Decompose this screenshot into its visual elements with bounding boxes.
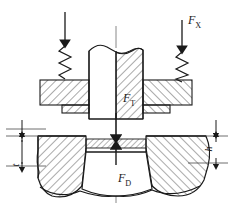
force-label-punch: FT <box>123 92 135 108</box>
die-right <box>146 136 210 196</box>
force-label-blank-holder: FX <box>188 14 201 30</box>
diagram-svg <box>0 0 232 218</box>
die-cavity <box>82 152 152 196</box>
figure-canvas: FX FT FD t h <box>0 0 232 218</box>
coil-spring-icon-right <box>176 52 188 82</box>
blank-holder-right <box>143 80 192 113</box>
coil-spring-icon-left <box>59 46 71 79</box>
die-left <box>37 136 86 197</box>
dimension-label-h: h <box>204 144 214 154</box>
force-label-die: FD <box>118 172 131 188</box>
blank-holder-left <box>40 80 89 113</box>
dimension-label-t: t <box>11 160 21 170</box>
sheet-blank <box>86 139 146 148</box>
